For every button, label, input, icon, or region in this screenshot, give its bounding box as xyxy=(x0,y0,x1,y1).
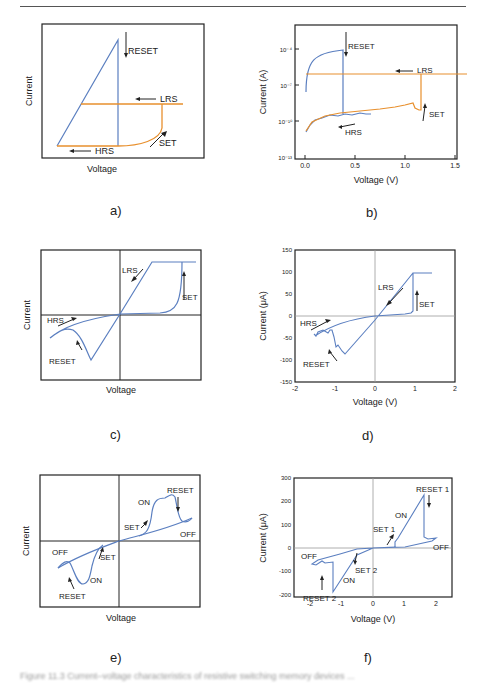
panel-f-chart: 300 200 100 0 -100 -200 -2 -1 0 1 2 RESE… xyxy=(0,0,482,660)
annotation-on-neg: ON xyxy=(343,576,355,585)
figure-caption: Figure 11.3 Current–voltage characterist… xyxy=(20,671,466,681)
y-axis-label: Current (μA) xyxy=(258,513,268,563)
annotation-set1: SET 1 xyxy=(373,525,396,534)
y-tick: 200 xyxy=(281,498,292,504)
x-tick: 2 xyxy=(434,600,438,607)
annotation-set2: SET 2 xyxy=(355,566,378,575)
y-tick: 300 xyxy=(281,475,292,481)
y-tick: -100 xyxy=(279,568,292,574)
y-tick: 0 xyxy=(288,545,292,551)
annotation-on-pos: ON xyxy=(395,511,407,520)
x-axis-label: Voltage (V) xyxy=(351,614,396,624)
annotation-off-pos: OFF xyxy=(433,543,449,552)
annotation-reset2: RESET 2 xyxy=(303,594,337,603)
annotation-off-neg: OFF xyxy=(301,552,317,561)
x-tick: 0 xyxy=(371,600,375,607)
x-tick: 1 xyxy=(402,600,406,607)
y-tick: 100 xyxy=(281,522,292,528)
panel-label-f: f) xyxy=(364,650,372,665)
annotation-reset1: RESET 1 xyxy=(416,485,450,494)
x-tick: -1 xyxy=(338,600,344,607)
y-tick: -200 xyxy=(279,592,292,598)
